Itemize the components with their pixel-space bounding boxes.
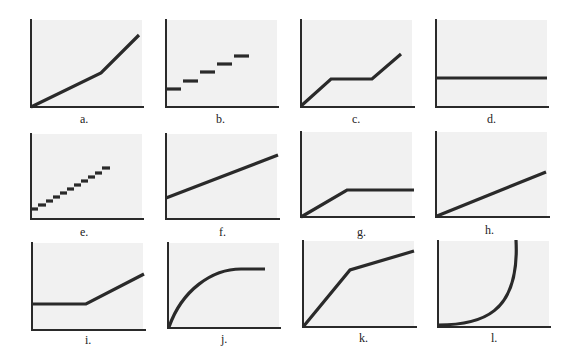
panel-a: a. xyxy=(31,19,144,126)
panel-b: b. xyxy=(166,19,279,126)
panel-label: k. xyxy=(359,331,368,345)
panel-label: f. xyxy=(219,225,226,239)
panel-i: i. xyxy=(32,242,146,347)
panel-label: i. xyxy=(85,333,91,347)
panel-e: e. xyxy=(31,133,144,239)
panel-g: g. xyxy=(301,131,415,239)
panel-j: j. xyxy=(168,242,281,346)
panel-label: b. xyxy=(216,112,225,126)
panel-label: g. xyxy=(357,225,366,239)
panel-label: c. xyxy=(352,112,360,126)
panel-l: l. xyxy=(438,240,551,345)
panel-f: f. xyxy=(166,133,280,239)
panel-label: l. xyxy=(491,331,497,345)
graph-grid: a. b. c. d. xyxy=(0,0,577,357)
panel-label: h. xyxy=(485,223,494,237)
panel-label: e. xyxy=(80,225,88,239)
panel-label: d. xyxy=(487,112,496,126)
panel-label: j. xyxy=(220,332,227,346)
panel-h: h. xyxy=(436,131,550,237)
panel-d: d. xyxy=(436,19,549,126)
panel-c: c. xyxy=(301,19,415,126)
panel-k: k. xyxy=(303,240,417,345)
panel-label: a. xyxy=(80,112,88,126)
